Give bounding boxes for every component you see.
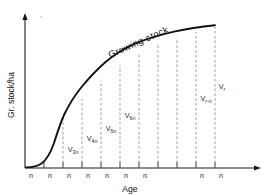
value-label-v3n: V3n xyxy=(68,145,79,155)
x-tick-label: n xyxy=(29,171,33,180)
paper-speck xyxy=(40,16,42,18)
x-axis-ticks xyxy=(44,162,215,168)
x-tick-label: n xyxy=(105,171,109,180)
x-tick-label: n xyxy=(67,171,71,180)
x-tick-label: n xyxy=(48,171,52,180)
y-axis-arrowhead xyxy=(22,13,27,20)
dashed-drop-lines xyxy=(63,27,215,168)
y-axis-title: Gr. stock/ha xyxy=(6,72,16,118)
x-tick-label: n xyxy=(86,171,90,180)
growing-stock-figure: Growing stock V3n V4n V5n V6n Vr-n Vr n … xyxy=(0,0,269,195)
chart-canvas: Growing stock V3n V4n V5n V6n Vr-n Vr n … xyxy=(0,0,269,195)
x-tick-label: n xyxy=(124,171,128,180)
x-tick-label: n xyxy=(200,171,204,180)
x-tick-label: n xyxy=(219,171,223,180)
value-label-vr: Vr xyxy=(219,82,226,92)
value-label-v6n: V6n xyxy=(125,111,136,121)
x-tick-label: n xyxy=(143,171,147,180)
x-axis-title: Age xyxy=(122,184,138,194)
value-labels-group: V3n V4n V5n V6n Vr-n Vr xyxy=(68,82,226,155)
x-axis-arrowhead xyxy=(254,165,261,170)
value-label-vr-n: Vr-n xyxy=(200,94,211,104)
curve-label: Growing stock xyxy=(107,24,170,59)
value-label-v5n: V5n xyxy=(106,124,117,134)
value-label-v4n: V4n xyxy=(87,134,98,144)
x-axis-tick-labels: n n n n n n n n n xyxy=(29,171,223,180)
